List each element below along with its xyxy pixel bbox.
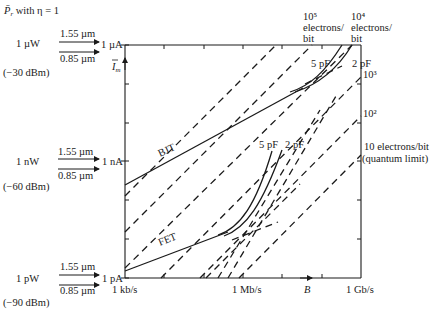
label-1e4: 10⁴ bbox=[351, 11, 366, 22]
label-1e3: 10³ bbox=[363, 69, 377, 80]
label-1e5-bit: bit bbox=[303, 33, 314, 44]
label-1e5-electrons: electrons/ bbox=[303, 22, 344, 33]
chart: P̄r with η = 1 1 µW (−30 dBm) 1.55 µm 0.… bbox=[0, 0, 443, 319]
y-axis-label: Im bbox=[111, 61, 121, 74]
wl-155-bot: 1.55 µm bbox=[60, 261, 95, 272]
power-1nw: 1 nW bbox=[16, 156, 39, 167]
label-1e2: 10² bbox=[363, 108, 377, 119]
x-label-1kbs: 1 kb/s bbox=[112, 284, 137, 295]
y-label-1pa: 1 pA bbox=[102, 273, 123, 284]
x-ticks bbox=[164, 45, 322, 278]
label-bjt-2pf: 2 pF bbox=[352, 58, 371, 69]
wl-085-mid: 0.85 µm bbox=[58, 170, 93, 181]
header-pr: P̄r with η = 1 bbox=[3, 5, 59, 18]
label-bjt-5pf: 5 pF bbox=[311, 58, 330, 69]
label-1e4-bit: bit bbox=[351, 33, 362, 44]
y-label-1na: 1 nA bbox=[102, 156, 123, 167]
power-1uw: 1 µW bbox=[16, 38, 40, 49]
label-quantum-limit: (quantum limit) bbox=[362, 153, 429, 165]
wl-085-bot: 0.85 µm bbox=[60, 285, 95, 296]
steep-dashed-lines bbox=[125, 45, 342, 278]
power-1uw-dbm: (−30 dBm) bbox=[3, 67, 50, 79]
label-10-electrons: 10 electrons/bit bbox=[364, 141, 429, 152]
bjt-line bbox=[125, 88, 303, 185]
x-axis-label: B bbox=[304, 284, 311, 295]
label-fet-2pf: 2 pF bbox=[285, 139, 304, 150]
x-label-1gbs: 1 Gb/s bbox=[346, 284, 374, 295]
label-bjt: BJT bbox=[156, 141, 177, 159]
x-label-1mbs: 1 Mb/s bbox=[232, 284, 261, 295]
wl-155-mid: 1.55 µm bbox=[58, 146, 93, 157]
power-1pw-dbm: (−90 dBm) bbox=[3, 297, 50, 309]
y-label-1ua: 1 µA bbox=[101, 39, 123, 50]
power-1nw-dbm: (−60 dBm) bbox=[3, 181, 50, 193]
label-1e4-electrons: electrons/ bbox=[351, 22, 392, 33]
wl-085-top: 0.85 µm bbox=[60, 53, 95, 64]
label-fet-5pf: 5 pF bbox=[259, 139, 278, 150]
wl-155-top: 1.55 µm bbox=[60, 28, 95, 39]
power-1pw: 1 pW bbox=[16, 273, 39, 284]
label-1e5: 10⁵ bbox=[303, 11, 318, 22]
